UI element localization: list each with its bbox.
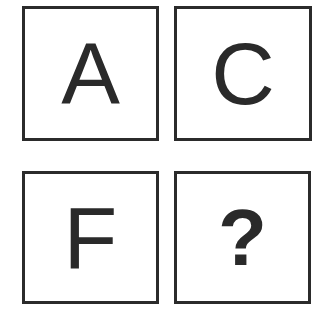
tile-letter: A — [61, 30, 120, 118]
tile-bottom-left: F — [22, 171, 159, 304]
tile-bottom-right-answer[interactable]: ? — [174, 171, 311, 304]
tile-top-right: C — [174, 6, 312, 141]
tile-top-left: A — [22, 6, 159, 141]
tile-letter: C — [211, 30, 275, 118]
tile-letter: F — [64, 194, 118, 282]
question-mark-icon: ? — [218, 198, 267, 278]
